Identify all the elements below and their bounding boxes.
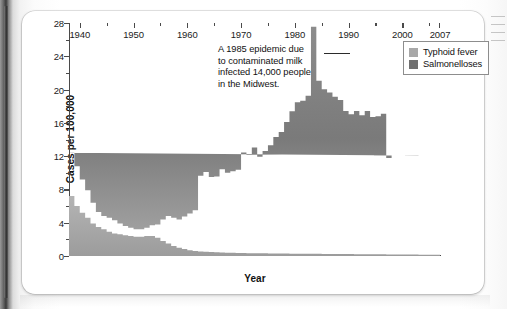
figure-panel: Cases per 100,000 Year 0481216202428 194… (22, 11, 484, 294)
page-edge-mark (491, 24, 505, 25)
y-tick-label: 12 (54, 151, 64, 162)
legend-label: Typhoid fever (423, 47, 478, 57)
y-tick-major (64, 256, 69, 257)
legend-item: Typhoid fever (409, 46, 482, 58)
annotation-line: A 1985 epidemic due (218, 44, 342, 56)
annotation-line: infected 14,000 people (218, 67, 342, 79)
y-tick-label: 20 (54, 84, 64, 95)
y-tick-label: 8 (59, 184, 64, 195)
book-binding-spine (4, 6, 9, 298)
y-tick-label: 28 (54, 18, 64, 29)
page-edge-mark (491, 16, 505, 17)
y-tick-label: 16 (54, 117, 64, 128)
legend-item: Salmonelloses (409, 58, 482, 70)
y-tick-label: 24 (54, 51, 64, 62)
legend-swatch-icon (409, 48, 418, 57)
y-tick-label: 4 (59, 217, 64, 228)
page-shadow (20, 295, 490, 307)
chart-legend: Typhoid feverSalmonelloses (403, 41, 489, 75)
legend-swatch-icon (409, 60, 418, 69)
epidemic-annotation: A 1985 epidemic dueto contaminated milki… (218, 44, 342, 90)
annotation-line: in the Midwest. (218, 79, 342, 91)
annotation-leader-line (324, 53, 350, 54)
page-edge-mark (491, 32, 505, 33)
page-edge-mark (491, 40, 505, 41)
y-tick-label: 0 (59, 251, 64, 262)
x-axis-label: Year (69, 273, 441, 284)
legend-label: Salmonelloses (423, 59, 482, 69)
annotation-line: to contaminated milk (218, 56, 342, 68)
scanned-page-background: Cases per 100,000 Year 0481216202428 194… (0, 0, 507, 309)
